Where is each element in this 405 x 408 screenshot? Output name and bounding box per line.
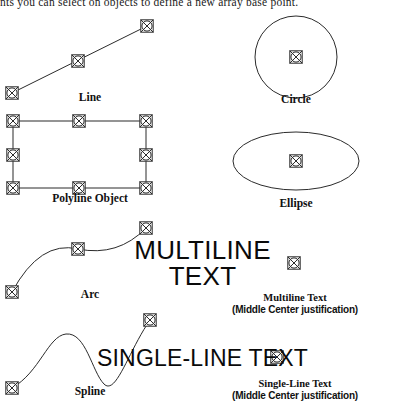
object-circle	[255, 16, 337, 98]
snap-point-marker-icon	[140, 149, 152, 161]
snap-point-marker-icon	[144, 314, 156, 326]
caption-circle: Circle	[236, 93, 356, 106]
polyline-geometry	[13, 121, 146, 188]
snap-point-marker-icon	[72, 55, 84, 67]
ellipse-geometry	[233, 132, 359, 190]
multiline-text-sample-line1: MULTILINE	[0, 236, 405, 264]
snap-point-marker-icon	[6, 382, 18, 394]
caption-line: Line	[30, 91, 150, 104]
intro-paragraph: nts you can select on objects to define …	[0, 0, 405, 9]
object-polyline	[7, 115, 152, 194]
caption-single-line-text-justification: (Middle Center justification)	[205, 390, 385, 402]
snap-point-marker-icon	[140, 115, 152, 127]
caption-multiline-text: Multiline Text	[215, 292, 375, 304]
multiline-text-sample-line2: TEXT	[0, 262, 405, 290]
caption-multiline-text-justification: (Middle Center justification)	[205, 304, 385, 316]
object-ellipse	[233, 132, 359, 190]
caption-single-line-text: Single-Line Text	[215, 378, 375, 390]
object-line	[6, 20, 153, 99]
line-geometry	[12, 26, 147, 93]
caption-polyline: Polyline Object	[20, 192, 160, 205]
snap-point-marker-icon	[141, 20, 153, 32]
snap-point-marker-icon	[7, 115, 19, 127]
single-line-text-sample: SINGLE-LINE TEXT	[0, 345, 405, 371]
caption-ellipse: Ellipse	[236, 197, 356, 210]
caption-arc: Arc	[30, 288, 150, 301]
snap-point-marker-icon	[140, 222, 152, 234]
snap-point-marker-icon	[6, 87, 18, 99]
caption-spline: Spline	[30, 385, 150, 398]
snap-point-marker-icon	[73, 115, 85, 127]
snap-point-marker-icon	[7, 149, 19, 161]
snap-point-marker-icon	[7, 182, 19, 194]
snap-point-marker-icon	[290, 51, 302, 63]
circle-geometry	[255, 16, 337, 98]
snap-point-marker-icon	[290, 155, 302, 167]
